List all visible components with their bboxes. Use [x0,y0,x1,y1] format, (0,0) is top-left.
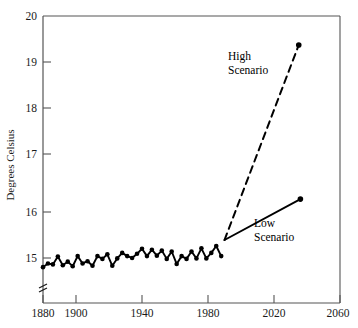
y-tick-label-20: 20 [26,10,38,22]
x-tick-labels: 1880 1900 1940 1980 2020 2060 [32,307,350,319]
x-axis-ticks [43,295,340,303]
data-point-marker [46,261,51,266]
data-point-marker [155,253,160,258]
y-tick-label-19: 19 [26,56,38,68]
data-point-marker [56,254,61,259]
y-axis-title: Degrees Celsius [4,129,16,200]
y-tick-labels: 20 19 18 17 16 15 [26,10,38,264]
x-tick-label-1880: 1880 [32,307,55,319]
chart-canvas: 20 19 18 17 16 15 1880 1900 1940 1980 20… [0,0,358,328]
data-point-marker [214,244,219,249]
data-point-marker [75,254,80,259]
low-scenario-label-line2: Scenario [254,231,294,243]
data-point-marker [160,248,165,253]
data-point-marker [115,256,120,261]
data-point-marker [100,257,105,262]
high-scenario-label-line1: High [228,50,251,63]
series-endpoint-marker [298,196,304,202]
data-point-marker [130,256,135,261]
data-point-marker [70,264,75,269]
data-point-marker [80,261,85,266]
x-tick-label-1900: 1900 [65,307,88,319]
high-scenario-label-line2: Scenario [228,64,268,76]
low-scenario-label-line1: Low [254,217,276,229]
data-point-marker [51,262,56,267]
data-point-marker [219,254,224,259]
data-point-marker [184,257,189,262]
data-point-marker [125,254,130,259]
data-point-marker [140,246,145,251]
data-point-marker [199,246,204,251]
temperature-projection-chart: 20 19 18 17 16 15 1880 1900 1940 1980 20… [0,0,358,328]
data-point-marker [61,263,66,268]
data-point-marker [120,251,125,256]
x-tick-label-1940: 1940 [131,307,154,319]
data-point-marker [105,252,110,257]
low-scenario-annotation: Low Scenario [254,217,294,243]
x-tick-label-2020: 2020 [263,307,286,319]
data-point-marker [179,254,184,259]
data-point-marker [174,262,179,267]
data-point-marker [90,263,95,268]
data-point-marker [145,254,150,259]
data-point-marker [41,265,46,270]
data-point-marker [209,251,214,256]
y-tick-label-18: 18 [26,102,38,114]
y-tick-label-16: 16 [26,206,38,218]
x-tick-label-1980: 1980 [197,307,220,319]
data-point-marker [164,257,169,262]
y-axis [39,16,51,303]
data-point-marker [169,249,174,254]
y-axis-ticks [43,62,51,258]
data-point-marker [135,252,140,257]
data-point-marker [65,259,70,264]
data-point-marker [110,263,115,268]
data-point-marker [189,249,194,254]
data-point-marker [85,259,90,264]
high-scenario-annotation: High Scenario [228,50,268,76]
x-tick-label-2060: 2060 [327,307,350,319]
data-point-marker [150,247,155,252]
data-point-marker [204,256,209,261]
x-axis [43,295,340,303]
y-tick-label-15: 15 [26,252,38,264]
data-point-marker [194,256,199,261]
y-tick-label-17: 17 [26,148,38,160]
data-point-marker [95,254,100,259]
series-endpoint-marker [296,42,302,48]
